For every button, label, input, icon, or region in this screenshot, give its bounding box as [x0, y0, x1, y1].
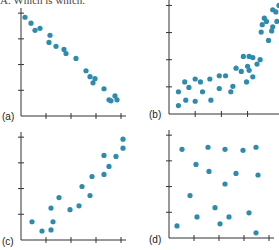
data-point [264, 19, 269, 24]
panel-label: (a) [2, 111, 14, 122]
data-point [176, 89, 181, 94]
data-point [246, 210, 251, 215]
scatter-plot-grid: (a)(b)(c)(d) [0, 0, 279, 250]
data-point [101, 172, 106, 177]
data-point [48, 206, 53, 211]
data-point [193, 99, 198, 104]
data-point [259, 29, 264, 34]
data-point [120, 146, 125, 151]
data-point [53, 44, 58, 49]
data-point [87, 193, 92, 198]
data-point [194, 214, 199, 219]
data-point [183, 98, 188, 103]
data-point [87, 74, 92, 79]
data-point [39, 228, 44, 233]
data-point [76, 203, 81, 208]
scatter-panel-b: (b) [149, 0, 279, 120]
data-point [233, 66, 238, 71]
data-point [101, 86, 106, 91]
data-point [230, 84, 235, 89]
data-point [217, 221, 222, 226]
data-point [106, 164, 111, 169]
data-point [222, 181, 227, 186]
data-point [73, 56, 78, 61]
data-point [253, 145, 258, 150]
data-point [250, 74, 255, 79]
data-point [182, 79, 187, 84]
data-point [176, 103, 181, 108]
data-point [233, 171, 238, 176]
data-point [223, 73, 228, 78]
data-point [187, 193, 192, 198]
panel-label: (b) [149, 109, 161, 120]
scatter-panel-c: (c) [2, 132, 126, 247]
data-point [207, 76, 212, 81]
data-point [226, 214, 231, 219]
data-point [48, 227, 53, 232]
data-point [174, 223, 179, 228]
data-point [90, 80, 95, 85]
data-point [200, 89, 205, 94]
data-point [108, 98, 113, 103]
data-point [255, 172, 260, 177]
data-point [22, 15, 27, 20]
data-point [241, 54, 246, 59]
data-point [113, 154, 118, 159]
panel-label: (c) [2, 236, 14, 247]
data-point [50, 219, 55, 224]
data-point [63, 51, 68, 56]
data-point [258, 57, 263, 62]
data-point [260, 22, 265, 27]
data-point [217, 73, 222, 78]
data-point [193, 162, 198, 167]
data-point [198, 79, 203, 84]
data-point [274, 19, 279, 24]
data-point [193, 76, 198, 81]
data-point [245, 64, 250, 69]
data-point [206, 169, 211, 174]
data-point [29, 219, 34, 224]
data-point [273, 9, 278, 14]
data-point [240, 148, 245, 153]
scatter-panel-d: (d) [149, 130, 274, 245]
data-point [179, 147, 184, 152]
data-point [269, 28, 274, 33]
data-point [250, 55, 255, 60]
data-point [228, 89, 233, 94]
data-point [32, 28, 37, 33]
data-point [208, 98, 213, 103]
data-point [276, 3, 279, 8]
data-point [266, 38, 271, 43]
data-point [114, 97, 119, 102]
panel-label: (d) [149, 234, 161, 245]
data-point [120, 137, 125, 142]
data-point [205, 145, 210, 150]
data-point [37, 26, 42, 31]
data-point [253, 230, 258, 235]
data-point [47, 33, 52, 38]
data-point [83, 68, 88, 73]
data-point [56, 195, 61, 200]
data-point [254, 61, 259, 66]
data-point [101, 153, 106, 158]
data-point [217, 86, 222, 91]
data-point [212, 205, 217, 210]
data-point [244, 79, 249, 84]
data-point [239, 69, 244, 74]
data-point [67, 207, 72, 212]
data-point [186, 85, 191, 90]
data-point [28, 21, 33, 26]
data-point [89, 174, 94, 179]
data-point [46, 40, 51, 45]
data-point [222, 147, 227, 152]
scatter-panel-a: (a) [2, 8, 126, 122]
data-point [79, 184, 84, 189]
